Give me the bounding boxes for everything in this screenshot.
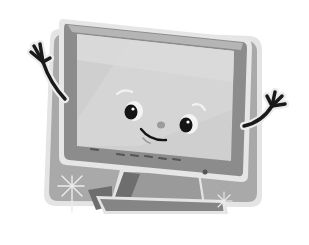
monitor-character-illustration — [0, 0, 309, 245]
nose — [157, 122, 165, 129]
monitor-screen — [77, 34, 234, 161]
power-led — [203, 170, 208, 175]
